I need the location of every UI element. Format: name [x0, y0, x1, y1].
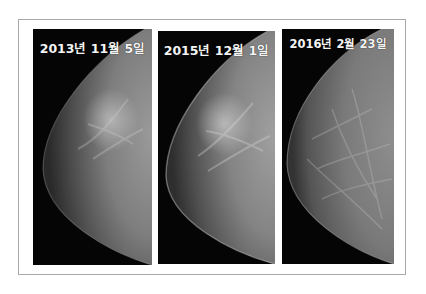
mammogram-panel-2015: 2015년 12월 1일 [158, 31, 275, 264]
mammogram-image [158, 31, 275, 264]
mammogram-image [33, 29, 152, 265]
exam-date-label: 2015년 12월 1일 [158, 40, 275, 59]
mammogram-image [282, 29, 394, 264]
exam-date-label: 2013년 11월 5일 [33, 38, 152, 57]
mammogram-panel-2013: 2013년 11월 5일 [33, 29, 152, 265]
exam-date-label: 2016년 2월 23일 [282, 35, 394, 51]
mammogram-panel-2016: 2016년 2월 23일 [282, 29, 394, 264]
